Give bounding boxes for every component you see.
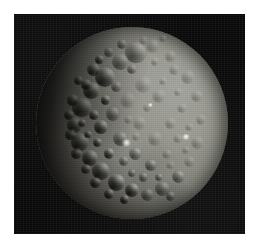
page-canvas bbox=[0, 0, 259, 249]
limb-softening-edge bbox=[36, 27, 228, 219]
planetary-disc bbox=[36, 27, 228, 219]
astronomy-image-panel bbox=[14, 14, 245, 234]
